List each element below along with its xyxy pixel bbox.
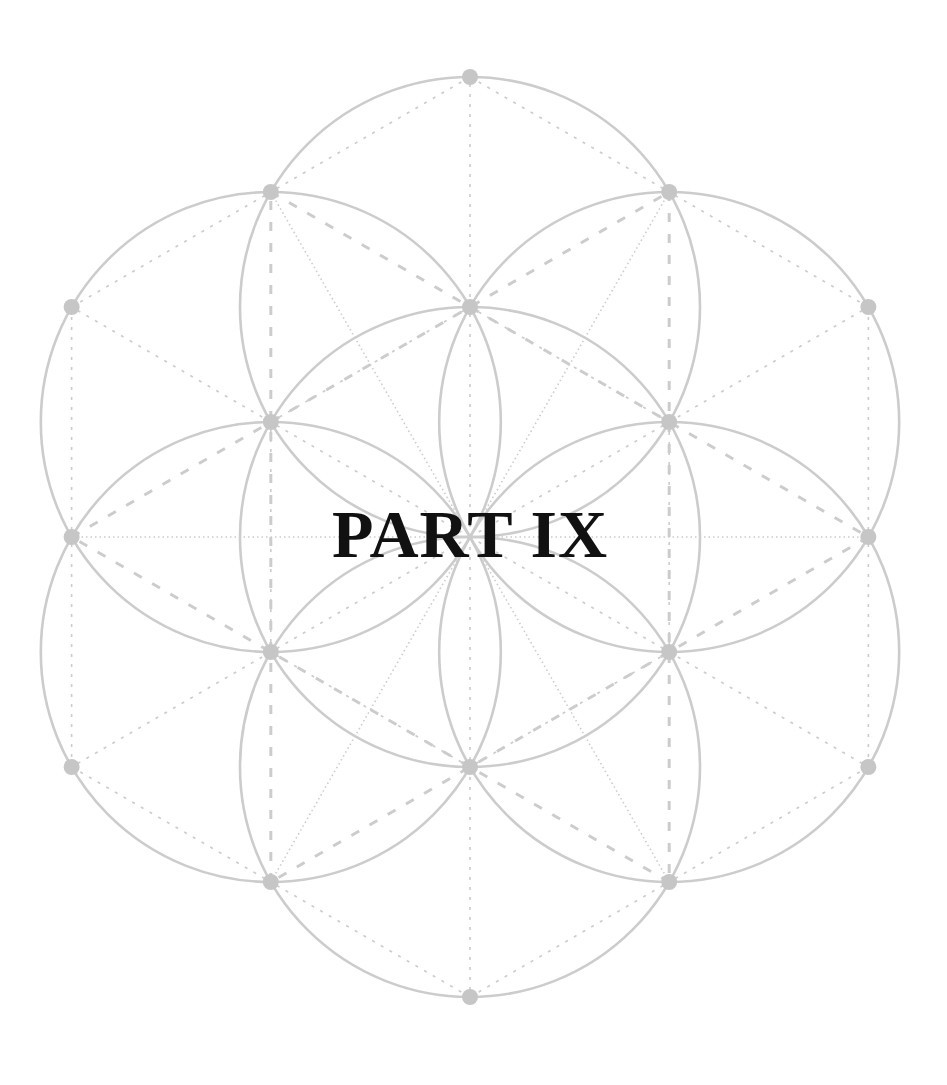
dashed-outer-polygon-edge xyxy=(271,77,470,192)
inner-node-dot xyxy=(263,414,279,430)
outer-node-dot xyxy=(462,989,478,1005)
middle-node-dot xyxy=(661,184,677,200)
middle-node-dot xyxy=(661,874,677,890)
thick-dashed-triangle-edge xyxy=(72,192,670,537)
outer-node-dot xyxy=(860,759,876,775)
inner-node-dot xyxy=(263,644,279,660)
outer-node-dot xyxy=(64,299,80,315)
middle-node-dot xyxy=(263,184,279,200)
dashed-outer-polygon-edge xyxy=(470,882,669,997)
dashed-outer-polygon-edge xyxy=(271,882,470,997)
dashed-outer-polygon-edge xyxy=(470,77,669,192)
outer-node-dot xyxy=(462,69,478,85)
thick-dashed-triangle-edge xyxy=(271,192,869,537)
outer-node-dot xyxy=(860,299,876,315)
thick-dashed-triangle-edge xyxy=(72,537,670,882)
middle-node-dot xyxy=(263,874,279,890)
inner-node-dot xyxy=(462,299,478,315)
outer-node-dot xyxy=(64,759,80,775)
inner-node-dot xyxy=(661,414,677,430)
inner-node-dot xyxy=(462,759,478,775)
inner-node-dot xyxy=(661,644,677,660)
thick-dashed-triangle-edge xyxy=(271,537,869,882)
part-title: PART IX xyxy=(0,490,940,578)
